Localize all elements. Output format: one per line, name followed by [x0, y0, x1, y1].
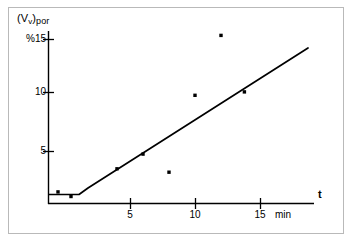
data-point — [69, 195, 72, 198]
figure: (Vv)por %15 10 5 5 10 15 t min — [0, 0, 353, 246]
y-axis-label: (Vv)por — [17, 12, 49, 26]
x-tick-label-5: 5 — [118, 209, 142, 220]
data-points — [56, 34, 246, 199]
data-point — [141, 152, 144, 155]
data-point — [115, 167, 118, 170]
chart-plot — [0, 0, 353, 246]
data-point — [243, 90, 246, 93]
data-point — [56, 190, 59, 193]
fitted-curve — [49, 48, 308, 195]
y-axis-label-main: (V — [17, 12, 28, 24]
y-tick-label-15: %15 — [12, 33, 46, 44]
y-tick-label-5: 5 — [12, 145, 46, 156]
y-axis-label-suffix: por — [36, 16, 49, 26]
y-tick-label-10: 10 — [12, 86, 46, 97]
x-axis-unit: min — [275, 209, 291, 220]
x-tick-label-15: 15 — [248, 209, 272, 220]
data-point — [193, 94, 196, 97]
data-point — [167, 171, 170, 174]
x-tick-label-10: 10 — [183, 209, 207, 220]
x-axis-name: t — [318, 188, 322, 200]
data-point — [219, 34, 222, 37]
